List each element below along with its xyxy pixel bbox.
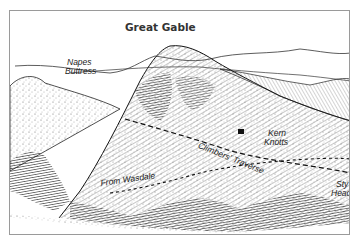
label-napes-line2: Buttress [65, 67, 96, 76]
label-sty-line2: Head [331, 189, 350, 198]
kern-knotts-crag [238, 129, 244, 134]
illustration-title: Great Gable [125, 21, 196, 33]
mountain-drawing [10, 11, 350, 235]
left-cliffs [10, 152, 70, 211]
label-kern-line2: Knotts [264, 138, 288, 147]
illustration-frame: Great Gable Napes Buttress Kern Knotts C… [9, 10, 350, 235]
